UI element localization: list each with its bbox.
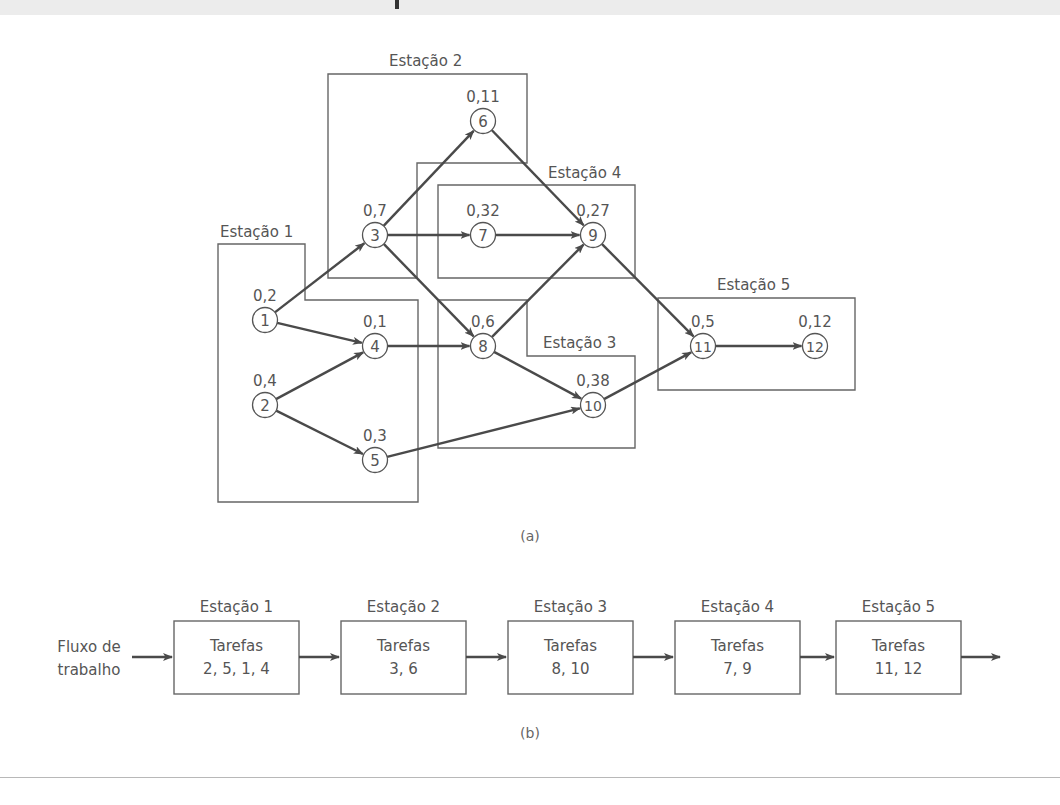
task-node-5: 50,3	[363, 427, 388, 473]
node-number: 7	[478, 227, 488, 245]
node-number: 3	[370, 227, 380, 245]
node-number: 10	[584, 398, 602, 414]
task-time: 0,27	[576, 202, 609, 220]
task-node-12: 120,12	[798, 313, 831, 359]
caption-a: (a)	[520, 528, 540, 544]
figure-bottom-rule	[0, 777, 1060, 778]
station-outlines: Estação 1Estação 2Estação 3Estação 4Esta…	[218, 52, 855, 502]
task-node-9: 90,27	[576, 202, 609, 248]
task-node-4: 40,1	[363, 313, 388, 359]
caption-b: (b)	[520, 725, 540, 741]
task-time: 0,38	[576, 372, 609, 390]
tasks-list: 7, 9	[723, 660, 752, 678]
task-time: 0,32	[466, 202, 499, 220]
tasks-title: Tarefas	[710, 637, 764, 655]
arrow-3-to-6	[384, 131, 474, 226]
flow-station-4-box	[675, 621, 800, 694]
flow-station-2-title: Estação 2	[367, 598, 440, 616]
station-2-title: Estação 2	[389, 52, 462, 70]
tasks-list: 11, 12	[875, 660, 923, 678]
station-1-outline	[218, 244, 418, 502]
station-1-title: Estação 1	[220, 223, 293, 241]
node-number: 11	[694, 339, 712, 355]
node-number: 4	[370, 338, 380, 356]
tasks-list: 3, 6	[389, 660, 418, 678]
flow-station-1-box	[174, 621, 299, 694]
task-node-7: 70,32	[466, 202, 499, 248]
arrow-8-to-9	[492, 245, 584, 338]
tasks-title: Tarefas	[871, 637, 925, 655]
tasks-title: Tarefas	[376, 637, 430, 655]
tasks-list: 2, 5, 1, 4	[203, 660, 270, 678]
flow-station-3-title: Estação 3	[534, 598, 607, 616]
task-node-11: 110,5	[691, 313, 716, 359]
flow-station-5-title: Estação 5	[862, 598, 935, 616]
flow-station-4-title: Estação 4	[701, 598, 774, 616]
arrow-5-to-10	[387, 408, 580, 457]
station-flow: Estação 1Tarefas2, 5, 1, 4Estação 2Taref…	[132, 598, 1000, 694]
tasks-title: Tarefas	[543, 637, 597, 655]
node-number: 12	[806, 339, 824, 355]
task-node-1: 10,2	[253, 287, 278, 333]
precedence-diagram: Estação 1Estação 2Estação 3Estação 4Esta…	[218, 52, 855, 544]
arrow-10-to-11	[604, 352, 691, 399]
flow-station-1-title: Estação 1	[200, 598, 273, 616]
task-time: 0,5	[691, 313, 715, 331]
tasks-list: 8, 10	[551, 660, 589, 678]
node-number: 2	[260, 397, 270, 415]
task-time: 0,1	[363, 313, 387, 331]
task-node-10: 100,38	[576, 372, 609, 418]
task-time: 0,7	[363, 202, 387, 220]
arrow-2-to-5	[276, 411, 363, 454]
task-time: 0,4	[253, 372, 277, 390]
arrow-2-to-4	[276, 352, 363, 399]
node-number: 1	[260, 312, 270, 330]
assembly-line-diagram: Estação 1Estação 2Estação 3Estação 4Esta…	[0, 0, 1060, 805]
station-flow-diagram: Fluxo de trabalho Estação 1Tarefas2, 5, …	[57, 598, 1000, 741]
arrow-1-to-4	[277, 323, 362, 343]
arrow-9-to-11	[602, 244, 694, 337]
flow-station-3-box	[508, 621, 633, 694]
task-time: 0,12	[798, 313, 831, 331]
node-number: 5	[370, 452, 380, 470]
node-number: 6	[478, 113, 488, 131]
node-number: 8	[478, 338, 488, 356]
arrow-3-to-8	[384, 244, 474, 336]
workflow-label-line1: Fluxo de	[57, 638, 120, 656]
task-time: 0,3	[363, 427, 387, 445]
task-node-6: 60,11	[466, 88, 499, 134]
task-time: 0,6	[471, 313, 495, 331]
flow-station-2-box	[341, 621, 466, 694]
node-number: 9	[588, 227, 598, 245]
flow-station-5-box	[836, 621, 961, 694]
tasks-title: Tarefas	[209, 637, 263, 655]
station-4-title: Estação 4	[548, 164, 621, 182]
station-3-title: Estação 3	[543, 334, 616, 352]
station-5-title: Estação 5	[717, 276, 790, 294]
workflow-label-line2: trabalho	[58, 661, 121, 679]
arrow-8-to-10	[494, 352, 581, 399]
task-node-2: 20,4	[253, 372, 278, 418]
task-time: 0,11	[466, 88, 499, 106]
task-time: 0,2	[253, 287, 277, 305]
